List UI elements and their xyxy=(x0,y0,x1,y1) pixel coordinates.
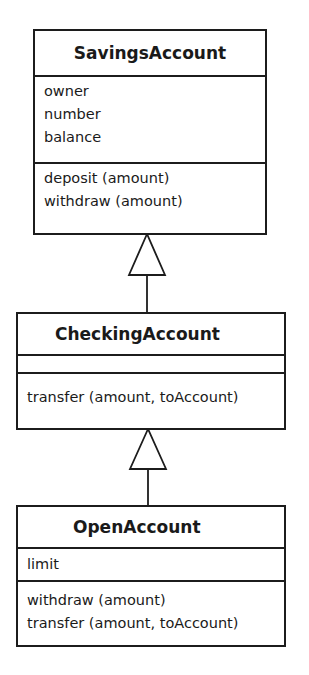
attribute: number xyxy=(44,103,256,126)
attribute: balance xyxy=(44,126,256,149)
attribute: owner xyxy=(44,80,256,103)
attributes-section xyxy=(18,356,284,374)
class-open-account: OpenAccount limit withdraw (amount) tran… xyxy=(16,505,286,647)
generalization-checking-to-savings xyxy=(129,234,165,313)
class-checking-account: CheckingAccount transfer (amount, toAcco… xyxy=(16,312,286,430)
class-name: OpenAccount xyxy=(18,507,284,549)
operations-section: deposit (amount) withdraw (amount) xyxy=(35,164,265,213)
operation: deposit (amount) xyxy=(44,167,256,190)
hollow-triangle-arrow-icon xyxy=(130,429,166,469)
attribute: limit xyxy=(27,553,275,576)
attributes-section: limit xyxy=(18,549,284,582)
class-name: SavingsAccount xyxy=(35,31,265,77)
attributes-section: owner number balance xyxy=(35,77,265,164)
operations-section: withdraw (amount) transfer (amount, toAc… xyxy=(18,582,284,635)
generalization-open-to-checking xyxy=(130,429,166,506)
class-name: CheckingAccount xyxy=(18,314,284,356)
class-savings-account: SavingsAccount owner number balance depo… xyxy=(33,29,267,235)
operation: transfer (amount, toAccount) xyxy=(27,612,275,635)
operation: transfer (amount, toAccount) xyxy=(27,386,275,409)
operation: withdraw (amount) xyxy=(44,190,256,213)
operations-section: transfer (amount, toAccount) xyxy=(18,374,284,409)
hollow-triangle-arrow-icon xyxy=(129,234,165,275)
operation: withdraw (amount) xyxy=(27,589,275,612)
